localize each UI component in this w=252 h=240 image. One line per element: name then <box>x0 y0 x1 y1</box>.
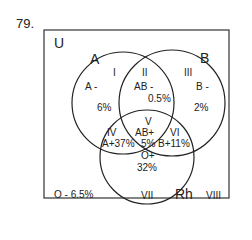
region-VII-percent: 32% <box>137 163 157 173</box>
set-a-label: A <box>90 54 99 64</box>
region-I-numeral: I <box>113 68 116 78</box>
region-VII-numeral: VII <box>141 191 153 201</box>
region-III-numeral: III <box>184 68 192 78</box>
region-VIII-label: O - 6.5% <box>54 190 93 200</box>
region-IV-numeral: IV <box>107 128 116 138</box>
region-VII-type: O+ <box>141 151 155 161</box>
region-V-percent: 5% <box>141 139 155 149</box>
region-I-percent: 6% <box>97 103 111 113</box>
set-rh-label: Rh <box>175 189 193 199</box>
set-b-label: B <box>200 53 209 63</box>
region-V-type: AB+ <box>135 128 154 138</box>
region-II-percent: 0.5% <box>148 94 171 104</box>
region-II-type: AB - <box>134 82 153 92</box>
region-VIII-numeral: VIII <box>206 191 221 201</box>
region-VI-numeral: VI <box>170 128 179 138</box>
region-III-type: B - <box>196 82 209 92</box>
region-III-percent: 2% <box>194 103 208 113</box>
universe-label: U <box>54 38 64 48</box>
region-I-type: A - <box>85 82 97 92</box>
region-V-numeral: V <box>145 117 152 127</box>
region-IV-label: A+37% <box>102 139 135 149</box>
region-VI-label: B+11% <box>158 139 190 149</box>
region-II-numeral: II <box>142 68 148 78</box>
